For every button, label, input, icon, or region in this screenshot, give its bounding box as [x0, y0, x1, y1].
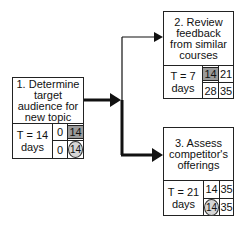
duration-unit: days — [171, 82, 194, 94]
task-node-3: 3. Assess competitor's offerings T = 21 … — [163, 127, 234, 216]
duration-label: T = 21 — [168, 186, 199, 198]
early-start: 0 — [53, 123, 67, 140]
early-finish: 21 — [219, 65, 233, 82]
early-start: 14 — [203, 65, 218, 82]
late-start: 14 — [204, 199, 219, 215]
late-finish: 14 — [68, 141, 83, 158]
early-start: 14 — [204, 180, 219, 198]
task-title: 3. Assess competitor's offerings — [164, 128, 233, 181]
late-start: 28 — [203, 83, 218, 98]
task-title: 2. Review feedback from similar courses — [164, 12, 233, 66]
early-finish: 14 — [68, 123, 83, 140]
duration-label: T = 14 — [17, 129, 48, 141]
duration-cell: T = 21 days — [164, 180, 204, 215]
task-node-1: 1. Determine target audience for new top… — [12, 77, 84, 159]
early-finish: 35 — [220, 180, 233, 198]
duration-unit: days — [172, 198, 195, 210]
task-schedule-table: T = 7 days 14 21 28 35 — [164, 65, 233, 98]
late-start: 0 — [53, 141, 67, 158]
duration-unit: days — [21, 141, 44, 153]
duration-cell: T = 7 days — [164, 65, 203, 98]
task-node-2: 2. Review feedback from similar courses … — [163, 11, 234, 99]
late-finish: 35 — [220, 199, 233, 215]
late-finish: 35 — [219, 83, 233, 98]
task-title: 1. Determine target audience for new top… — [13, 78, 83, 124]
duration-cell: T = 14 days — [13, 123, 53, 158]
task-schedule-table: T = 14 days 0 14 0 14 — [13, 123, 83, 158]
duration-label: T = 7 — [170, 70, 195, 82]
task-schedule-table: T = 21 days 14 35 14 35 — [164, 180, 233, 215]
